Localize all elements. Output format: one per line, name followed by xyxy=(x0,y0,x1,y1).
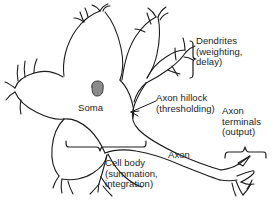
neuron-diagram: Dendrites (weighting, delay) Soma Axon h… xyxy=(0,0,276,214)
label-soma: Soma xyxy=(78,103,103,114)
label-axon-hillock: Axon hillock (thresholding) xyxy=(156,93,215,114)
cell-body-bracket xyxy=(66,141,146,151)
nucleus xyxy=(92,81,103,96)
dendrite-left xyxy=(5,59,64,119)
soma-outline xyxy=(64,80,146,153)
dendrite-top-middle xyxy=(122,7,168,80)
label-dendrites: Dendrites (weighting, delay) xyxy=(196,36,243,68)
label-cell-body: Cell body (summation, integration) xyxy=(105,158,158,190)
axon-terminals xyxy=(220,156,254,196)
dendrite-right xyxy=(146,38,195,83)
label-axon: Axon xyxy=(168,150,190,161)
label-axon-terminals: Axon terminals (output) xyxy=(222,106,261,138)
axon-terminals-bracket xyxy=(225,147,266,158)
dendrite-top-left xyxy=(64,4,123,80)
